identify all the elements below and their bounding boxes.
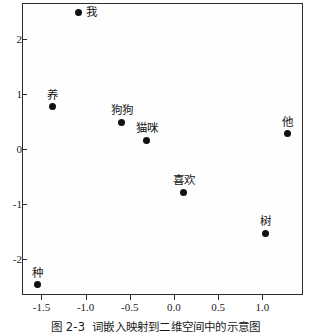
x-tick-label: 1.0 [255, 301, 269, 313]
caption-text: 词嵌入映射到二维空间中的示意图 [92, 320, 260, 334]
caption-number: 图 2-3 [51, 320, 85, 334]
x-tick-mark [41, 295, 42, 300]
y-tick-label: 2 [17, 33, 23, 45]
x-tick-mark [174, 295, 175, 300]
scatter-point [262, 230, 269, 237]
y-tick-mark [22, 259, 27, 260]
scatter-point [143, 137, 150, 144]
x-tick-mark [86, 295, 87, 300]
y-tick-mark [22, 39, 27, 40]
y-tick-mark [22, 149, 27, 150]
scatter-point [284, 130, 291, 137]
y-tick-label: 1 [17, 88, 23, 100]
x-tick-label: -1.5 [33, 301, 50, 313]
y-tick-label: 0 [17, 143, 23, 155]
scatter-point-label: 种 [32, 267, 43, 279]
figure-caption: 图 2-3词嵌入映射到二维空间中的示意图 [0, 318, 311, 334]
scatter-point [49, 103, 56, 110]
y-tick-label: -1 [13, 198, 22, 210]
scatter-point-label: 狗狗 [111, 105, 133, 117]
x-tick-mark [262, 295, 263, 300]
y-tick-mark [22, 94, 27, 95]
figure-scatter-word-embedding: 210-1-2 -1.5-1.0-0.50.00.51.0 我养狗狗猫咪他喜欢树… [0, 0, 311, 334]
plot-area [22, 3, 303, 295]
scatter-point [180, 189, 187, 196]
x-tick-mark [218, 295, 219, 300]
x-tick-label: 0.5 [211, 301, 225, 313]
scatter-point-label: 他 [282, 116, 293, 128]
y-tick-label: -2 [13, 253, 22, 265]
scatter-point-label: 树 [260, 216, 271, 228]
scatter-point-label: 喜欢 [173, 175, 195, 187]
y-tick-mark [22, 204, 27, 205]
x-tick-label: -1.0 [77, 301, 94, 313]
scatter-point-label: 猫咪 [136, 123, 158, 135]
x-tick-label: 0.0 [167, 301, 181, 313]
scatter-point-label: 我 [86, 7, 97, 19]
x-tick-mark [130, 295, 131, 300]
scatter-point-label: 养 [47, 89, 58, 101]
x-tick-label: -0.5 [121, 301, 138, 313]
